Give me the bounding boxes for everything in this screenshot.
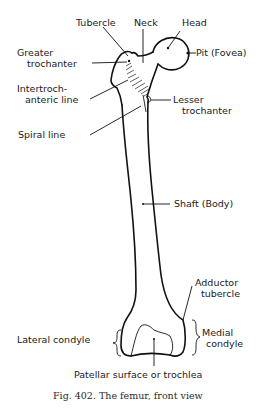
greater-trochanter — [111, 52, 132, 105]
leader-lines — [90, 27, 196, 366]
label-medial-1: Medial — [202, 327, 233, 338]
label-pit-fovea: Pit (Fovea) — [196, 47, 247, 58]
label-medial-2: condyle — [206, 338, 243, 349]
condyle-bottom — [131, 353, 170, 356]
neck-upper-edge — [132, 52, 153, 56]
label-adductor-2: tubercle — [201, 288, 240, 299]
shaft-medial-edge — [148, 102, 186, 356]
label-lesser-trochanter-1: Lesser — [173, 94, 204, 105]
label-intertrochanteric-1: Intertroch- — [17, 83, 67, 94]
intertrochanteric-hatching — [126, 63, 149, 96]
label-neck: Neck — [134, 17, 158, 28]
label-greater-trochanter-2: trochanter — [27, 58, 77, 69]
label-adductor-1: Adductor — [195, 277, 238, 288]
label-spiral-line: Spiral line — [18, 129, 65, 140]
patellar-surface-outline — [131, 325, 173, 356]
femur-outline — [111, 38, 189, 356]
label-intertrochanteric-2: anteric line — [25, 94, 79, 105]
spiral-line-mark — [143, 95, 146, 112]
label-lateral-condyle: Lateral condyle — [17, 334, 90, 345]
figure-caption: Fig. 402. The femur, front view — [53, 390, 203, 401]
shaft-lateral-edge — [121, 105, 136, 356]
label-shaft: Shaft (Body) — [174, 198, 233, 209]
femur-diagram: Tubercle Neck Head Greater trochanter Pi… — [0, 0, 267, 413]
label-tubercle: Tubercle — [75, 17, 116, 28]
label-greater-trochanter-1: Greater — [17, 47, 53, 58]
greater-trochanter-dot — [128, 60, 130, 62]
label-head: Head — [182, 17, 207, 28]
medial-condyle-brace — [192, 320, 200, 355]
label-patellar-surface: Patellar surface or trochlea — [74, 369, 202, 380]
label-lesser-trochanter-2: trochanter — [182, 105, 232, 116]
lateral-condyle-brace — [113, 330, 121, 356]
